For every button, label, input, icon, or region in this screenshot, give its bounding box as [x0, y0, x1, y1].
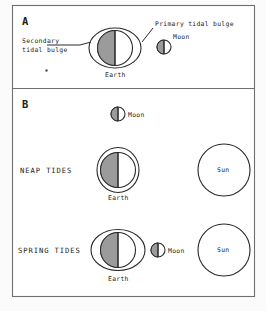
panel-a-moon-label: Moon — [173, 33, 190, 41]
diagram-stage: A Secondary tidal bulge Primary t — [0, 0, 266, 311]
tides-diagram: A Secondary tidal bulge Primary t — [0, 0, 266, 311]
spring-earth-label: Earth — [108, 275, 129, 283]
panel-a-secondary-label-line2: tidal bulge — [22, 46, 68, 54]
spring-sun-label: Sun — [217, 246, 229, 254]
panel-b-label: B — [22, 98, 28, 110]
panel-a-earth-label: Earth — [105, 71, 126, 79]
panel-a-primary-label: Primary tidal bulge — [155, 20, 234, 28]
panel-a-secondary-label-line1: Secondary — [22, 37, 59, 45]
row-label-spring: SPRING TIDES — [18, 246, 81, 255]
neap-earth-label: Earth — [108, 194, 129, 202]
panel-a-label: A — [22, 15, 29, 27]
spring-moon-label: Moon — [168, 247, 185, 255]
panel-b-top-moon-label: Moon — [128, 111, 145, 119]
neap-sun-label: Sun — [217, 166, 229, 174]
panel-a-stray-mark — [46, 70, 48, 72]
row-label-neap: NEAP TIDES — [20, 166, 72, 175]
